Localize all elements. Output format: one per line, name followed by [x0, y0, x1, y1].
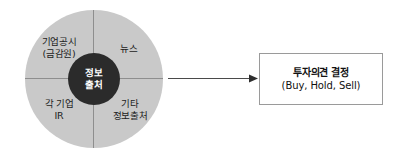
information-source-wheel: 기업공시 (금감원) 뉴스 각 기업 IR 기타 정보출처 정보 출처 [25, 10, 163, 148]
center-hub-line2: 출처 [85, 79, 103, 91]
quadrant-bottom-left-line2: IR [24, 110, 94, 122]
quadrant-top-left-line1: 기업공시 [23, 36, 95, 48]
quadrant-bottom-right-line2: 정보출처 [95, 110, 165, 122]
decision-box-subtitle: (Buy, Hold, Sell) [282, 79, 361, 93]
decision-box-title: 투자의견 결정 [293, 66, 348, 80]
center-hub-information-source: 정보 출처 [68, 53, 120, 105]
center-hub-line1: 정보 [85, 67, 103, 79]
quadrant-label-top-right: 뉴스 [95, 43, 163, 55]
quadrant-top-right-line1: 뉴스 [95, 43, 163, 55]
investment-decision-box: 투자의견 결정 (Buy, Hold, Sell) [259, 53, 383, 105]
flow-arrow-icon [168, 70, 260, 86]
